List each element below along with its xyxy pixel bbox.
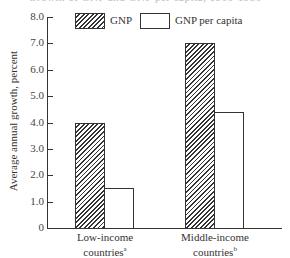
y-tick bbox=[47, 96, 53, 97]
y-tick bbox=[47, 202, 53, 203]
x-label-low-line2: countriesa bbox=[50, 243, 160, 258]
bar-gnp-low-income bbox=[75, 123, 105, 230]
x-label-middle-income: Middle-income countriesb bbox=[160, 231, 270, 258]
y-tick-label: 6.0 bbox=[14, 63, 44, 75]
x-label-mid-line2: countriesb bbox=[160, 243, 270, 258]
y-tick-label: 8.0 bbox=[14, 10, 44, 22]
legend-label-gnp: GNP bbox=[110, 14, 132, 26]
y-tick-label: 1.0 bbox=[14, 195, 44, 207]
bar-gnp-per-capita-middle-income bbox=[214, 112, 244, 229]
y-tick bbox=[47, 17, 53, 18]
y-tick-label: 7.0 bbox=[14, 36, 44, 48]
legend-swatch-gnp-per-capita bbox=[140, 13, 170, 29]
y-tick-label: 3.0 bbox=[14, 142, 44, 154]
chart-title-cutoff: Growth of GNP and GNP per capita, 1960-1… bbox=[0, 0, 290, 3]
y-tick-label: 0 bbox=[14, 221, 44, 233]
y-tick-label: 2.0 bbox=[14, 168, 44, 180]
legend-swatch-gnp bbox=[75, 13, 105, 29]
y-tick-label: 4.0 bbox=[14, 116, 44, 128]
bar-gnp-middle-income bbox=[185, 43, 215, 229]
y-tick-label: 5.0 bbox=[14, 89, 44, 101]
x-label-low-income: Low-income countriesa bbox=[50, 231, 160, 258]
y-tick bbox=[47, 149, 53, 150]
y-tick bbox=[47, 43, 53, 44]
y-tick bbox=[47, 175, 53, 176]
bar-gnp-per-capita-low-income bbox=[104, 188, 134, 229]
x-label-low-line1: Low-income bbox=[50, 231, 160, 243]
legend-label-gnp-per-capita: GNP per capita bbox=[175, 14, 242, 26]
x-label-mid-line1: Middle-income bbox=[160, 231, 270, 243]
y-tick bbox=[47, 70, 53, 71]
y-tick bbox=[47, 123, 53, 124]
